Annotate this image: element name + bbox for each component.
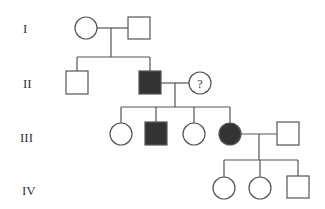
female-unaffected-IV-1 (213, 177, 235, 199)
female-unaffected-III-3 (183, 123, 205, 145)
female-unaffected-III-1 (110, 123, 132, 145)
male-unaffected-III-5 (277, 122, 299, 145)
unknown-status-marker: ? (197, 77, 202, 91)
female-unaffected-I-1 (75, 17, 97, 39)
female-affected-III-4 (219, 123, 241, 145)
male-unaffected-I-2 (128, 17, 150, 39)
female-unaffected-IV-2 (249, 177, 271, 199)
male-affected-II-2 (139, 71, 161, 94)
male-affected-III-2 (145, 122, 167, 145)
male-unaffected-IV-3 (287, 176, 309, 198)
pedigree-lines-and-symbols: ? (0, 0, 325, 209)
male-unaffected-II-1 (66, 71, 88, 94)
pedigree-diagram: I II III IV (0, 0, 325, 209)
